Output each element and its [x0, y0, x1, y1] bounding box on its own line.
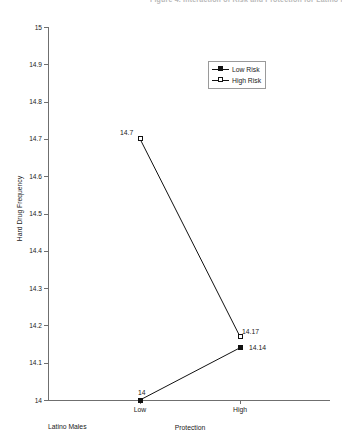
data-point-marker [138, 398, 143, 403]
data-point-marker [138, 136, 143, 141]
legend-item-low-risk[interactable]: Low Risk [212, 64, 261, 74]
data-point-label: 14.7 [120, 129, 133, 137]
series-lines-layer [0, 0, 342, 446]
legend-label: Low Risk [232, 65, 260, 74]
series-line-high-risk [140, 139, 240, 337]
legend-item-high-risk[interactable]: High Risk [212, 75, 261, 85]
data-point-label: 14.14 [249, 344, 266, 352]
series-line-low-risk [140, 348, 240, 400]
interaction-plot-figure: Figure 4. Interaction of Risk and Protec… [0, 0, 342, 446]
legend-marker-icon [212, 76, 229, 84]
chart-legend: Low RiskHigh Risk [208, 61, 266, 89]
data-point-label: 14 [138, 389, 146, 397]
legend-label: High Risk [232, 76, 261, 85]
data-point-label: 14.17 [242, 328, 259, 336]
legend-marker-icon [212, 65, 229, 73]
data-point-marker [238, 345, 243, 350]
